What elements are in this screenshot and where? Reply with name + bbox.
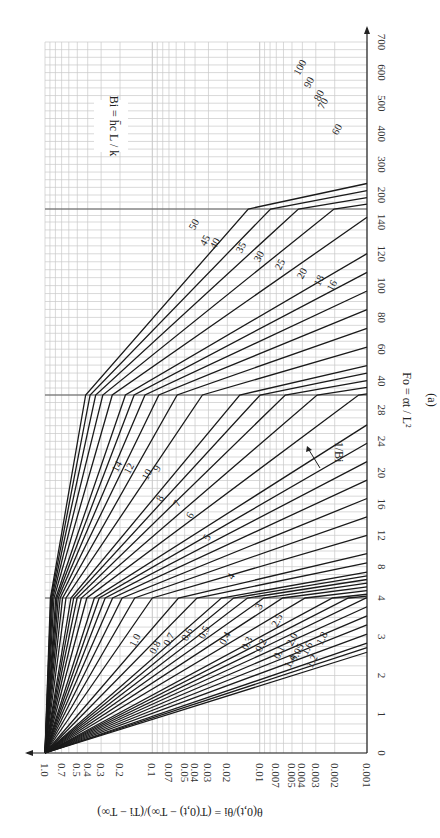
theta-axis-title: θ(0,t)/θi = (T(0,t) − T∞)/(Ti − T∞)	[97, 805, 262, 819]
inv-bi-curve-0_2	[45, 634, 367, 753]
curve-label: 2.5	[269, 612, 285, 629]
fo-tick-label: 120	[376, 246, 388, 263]
curve-label: 60	[330, 122, 345, 136]
inv-bi-arrow-line	[309, 450, 320, 468]
fo-tick-label: 28	[376, 405, 388, 417]
bi-definition-label: Bi = h̄c L / k	[107, 96, 121, 157]
fo-tick-label: 3	[376, 634, 388, 640]
theta-tick-label: 0.07	[163, 763, 175, 783]
theta-tick-label: 0.5	[71, 763, 83, 777]
curve-label: 35	[234, 240, 249, 254]
curve-label: 50	[187, 217, 202, 231]
fo-tick-label: 700	[376, 34, 388, 51]
fo-tick-label: 8	[376, 564, 388, 570]
theta-tick-label: 0.001	[361, 763, 373, 788]
theta-tick-label: 0.003	[310, 763, 322, 788]
curve-label: 16	[325, 278, 340, 292]
fo-tick-label: 1	[376, 712, 388, 718]
panel-label: (a)	[425, 393, 439, 406]
fo-tick-label: 20	[376, 467, 388, 479]
fo-tick-label: 16	[376, 499, 388, 511]
fo-tick-label: 300	[376, 156, 388, 173]
theta-tick-label: 0.05	[179, 763, 191, 783]
theta-tick-label: 0.02	[221, 763, 233, 782]
fo-tick-label: 12	[376, 530, 388, 541]
grid	[45, 42, 367, 753]
fo-tick-label: 140	[376, 214, 388, 231]
curve-label: 90	[302, 75, 317, 89]
fo-tick-label: 40	[376, 376, 388, 388]
curve-label: 100	[291, 58, 308, 77]
theta-tick-label: 0.04	[189, 763, 201, 783]
curve-label: 0	[317, 0, 322, 2]
theta-tick-label: 0.03	[202, 763, 214, 783]
fo-tick-label: 24	[376, 436, 388, 448]
fo-tick-label: 400	[376, 126, 388, 143]
fo-axis-arrow-icon	[364, 26, 370, 34]
fo-axis-title: Fo = αt / L²	[400, 372, 414, 428]
theta-axis-arrow-icon	[25, 750, 33, 756]
theta-tick-label: 0.4	[82, 763, 94, 777]
theta-tick-label: 0.005	[286, 763, 298, 788]
theta-tick-label: 0.3	[95, 763, 107, 777]
theta-tick-label: 0.002	[329, 763, 341, 788]
curve-label: 12	[122, 461, 137, 475]
fo-tick-label: 200	[376, 187, 388, 204]
theta-tick-label: 0.7	[56, 763, 68, 777]
theta-tick-label: 0.1	[146, 763, 158, 777]
curve-label: 4	[225, 571, 238, 581]
fo-tick-label: 500	[376, 95, 388, 112]
inv-bi-curve-45	[45, 272, 367, 753]
fo-tick-label: 0	[376, 750, 388, 756]
curves	[45, 183, 367, 753]
curve-label: 0.7	[161, 631, 177, 648]
theta-tick-label: 0.007	[270, 763, 282, 788]
fo-tick-label: 4	[376, 595, 388, 601]
theta-tick-label: 0.004	[296, 763, 308, 788]
curve-label: 8	[154, 493, 166, 503]
inv-bi-label: 1/Bi	[332, 442, 346, 463]
curve-label: 3	[253, 601, 265, 611]
fo-tick-label: 2	[376, 673, 388, 679]
fo-tick-label: 100	[376, 277, 388, 294]
fo-tick-label: 80	[376, 312, 388, 324]
heisler-chart: 0123481216202428406080100120140200300400…	[0, 0, 440, 838]
theta-tick-label: 0.2	[114, 763, 126, 777]
curve-label: 20	[295, 266, 310, 280]
theta-tick-label: 1.0	[39, 763, 51, 777]
fo-tick-label: 60	[376, 344, 388, 356]
fo-tick-label: 600	[376, 64, 388, 81]
theta-tick-label: 0.01	[254, 763, 266, 782]
